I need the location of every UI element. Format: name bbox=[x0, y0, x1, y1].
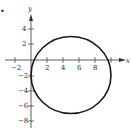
y-tick-label: 4 bbox=[22, 25, 27, 33]
problem-marker: • bbox=[0, 7, 5, 16]
x-tick-label: 2 bbox=[45, 64, 49, 72]
y-tick-label: 2 bbox=[22, 40, 26, 48]
x-tick-label: 6 bbox=[77, 64, 82, 72]
x-tick-label: 4 bbox=[61, 64, 66, 72]
x-tick-label: 8 bbox=[93, 64, 97, 72]
x-axis-label: x bbox=[126, 57, 130, 65]
y-tick-label: −2 bbox=[18, 72, 28, 80]
y-tick-label: −4 bbox=[18, 87, 29, 95]
x-tick-label: −2 bbox=[11, 64, 21, 72]
x-axis-arrow-icon bbox=[119, 58, 126, 62]
y-axis-label: y bbox=[27, 5, 33, 13]
y-tick-label: −6 bbox=[18, 102, 29, 110]
graph: • x y −2 2 4 6 8 4 2 −2 −4 −6 −8 bbox=[0, 0, 131, 131]
y-axis-arrow-icon bbox=[29, 14, 33, 21]
y-tick-label: −8 bbox=[18, 117, 28, 125]
circle-curve bbox=[31, 37, 111, 114]
